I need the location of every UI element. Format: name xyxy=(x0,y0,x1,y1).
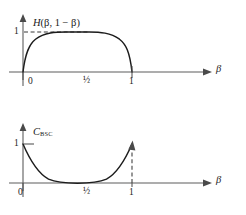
capacity-curve xyxy=(23,144,132,183)
y-axis-label-main: C xyxy=(33,126,40,137)
x-tick-label-1: 1 xyxy=(129,188,134,198)
y-axis-label: CBSC xyxy=(33,127,53,138)
capacity-svg xyxy=(0,105,246,215)
x-tick-label-0: 0 xyxy=(18,188,23,198)
y-axis-label-subscript: BSC xyxy=(40,130,53,137)
x-tick-label-0: 0 xyxy=(28,77,33,87)
y-axis-label: H(β, 1 − β) xyxy=(33,18,80,29)
capacity-curve-arrowhead xyxy=(128,141,135,151)
chart-capacity: CBSC β 1 0 ½ 1 xyxy=(0,105,246,215)
x-axis-arrowhead xyxy=(203,180,212,187)
x-axis-label: β xyxy=(216,64,221,75)
x-tick-label-half: ½ xyxy=(83,76,90,86)
figure-container: H(β, 1 − β) β 1 0 ½ 1 xyxy=(0,0,246,215)
entropy-curve xyxy=(23,32,132,72)
x-tick-label-1: 1 xyxy=(129,77,134,87)
x-axis-arrowhead xyxy=(203,69,212,76)
y-tick-label-1: 1 xyxy=(14,139,19,149)
y-axis-arrowhead xyxy=(20,14,27,22)
y-axis-label-main: H xyxy=(33,17,41,28)
x-tick-label-half: ½ xyxy=(83,187,90,197)
entropy-svg xyxy=(0,0,246,105)
y-axis-arrowhead xyxy=(20,123,27,131)
x-axis-label: β xyxy=(216,175,221,186)
chart-entropy: H(β, 1 − β) β 1 0 ½ 1 xyxy=(0,0,246,105)
y-axis-label-args: (β, 1 − β) xyxy=(41,17,80,28)
y-tick-label-1: 1 xyxy=(14,27,19,37)
